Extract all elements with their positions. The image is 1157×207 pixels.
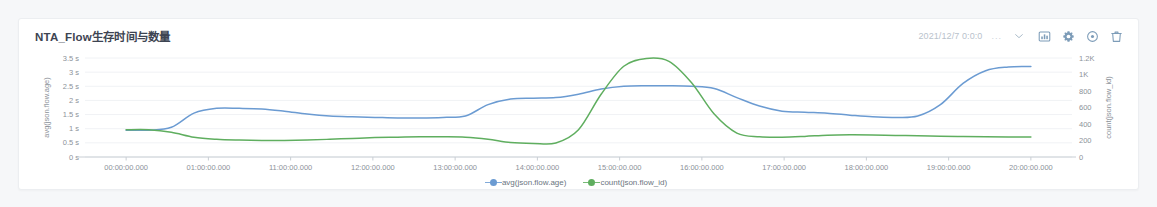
card-toolbar: 2021/12/7 0:0:0 ... — [918, 29, 1124, 44]
chart-legend: avg(json.flow.age) count(json.flow_id) — [19, 178, 1138, 187]
legend-item-avg[interactable]: avg(json.flow.age) — [490, 178, 566, 187]
legend-item-count[interactable]: count(json.flow_id) — [588, 178, 667, 187]
time-range-ellipsis: ... — [991, 31, 1002, 41]
y2-axis-tick-label: 800 — [1079, 87, 1092, 96]
y2-axis-tick-label: 400 — [1079, 120, 1092, 129]
x-axis-tick-label: 16:00:00.000 — [680, 163, 724, 172]
x-axis-tick-label: 11:00:00.000 — [269, 163, 312, 172]
page-background: NTA_Flow生存时间与数量 2021/12/7 0:0:0 ... — [0, 0, 1157, 207]
chart-plot-area: 3.5 s3 s2.5 s2 s1.5 s1 s0.5 s0 s1.2K1K80… — [19, 53, 1138, 191]
x-axis-tick-label: 13:00:00.000 — [433, 163, 477, 172]
y-axis-title: avg(json.flow.age) — [42, 77, 51, 138]
y-axis-tick-label: 2 s — [69, 96, 79, 105]
y-axis-tick-label: 3 s — [69, 68, 79, 77]
legend-label-avg: avg(json.flow.age) — [502, 178, 566, 187]
card-header: NTA_Flow生存时间与数量 2021/12/7 0:0:0 ... — [19, 19, 1138, 53]
y2-axis-tick-label: 1.2K — [1079, 54, 1094, 63]
y-axis-tick-label: 1.5 s — [63, 110, 80, 119]
x-axis-tick-label: 00:00:00.000 — [104, 163, 148, 172]
x-axis-tick-label: 17:00:00.000 — [762, 163, 806, 172]
y2-axis-tick-label: 200 — [1079, 136, 1092, 145]
y2-axis-title: count(json.flow_id) — [1104, 76, 1113, 139]
chevron-down-icon[interactable] — [1011, 29, 1026, 44]
chart-card: NTA_Flow生存时间与数量 2021/12/7 0:0:0 ... — [18, 18, 1139, 190]
trash-icon[interactable] — [1109, 29, 1124, 44]
legend-marker-avg — [490, 179, 497, 186]
line-chart[interactable]: 3.5 s3 s2.5 s2 s1.5 s1 s0.5 s0 s1.2K1K80… — [19, 53, 1138, 191]
y2-axis-tick-label: 600 — [1079, 103, 1092, 112]
y-axis-tick-label: 2.5 s — [63, 82, 80, 91]
series-line-count[interactable] — [126, 58, 1031, 144]
gear-icon[interactable] — [1061, 29, 1076, 44]
x-axis-tick-label: 01:00:00.000 — [186, 163, 230, 172]
legend-label-count: count(json.flow_id) — [600, 178, 667, 187]
y-axis-tick-label: 3.5 s — [63, 54, 80, 63]
time-range-label[interactable]: 2021/12/7 0:0:0 — [918, 31, 982, 41]
chart-bar-icon[interactable] — [1037, 29, 1052, 44]
x-axis-tick-label: 14:00:00.000 — [515, 163, 559, 172]
x-axis-tick-label: 20:00:00.000 — [1009, 163, 1053, 172]
page-title: NTA_Flow生存时间与数量 — [35, 28, 170, 44]
series-line-avg[interactable] — [126, 66, 1031, 130]
y-axis-tick-label: 0.5 s — [63, 138, 80, 147]
x-axis-tick-label: 15:00:00.000 — [598, 163, 642, 172]
legend-marker-count — [588, 179, 595, 186]
y-axis-tick-label: 1 s — [69, 124, 79, 133]
y2-axis-tick-label: 0 — [1079, 153, 1083, 162]
x-axis-tick-label: 19:00:00.000 — [927, 163, 971, 172]
x-axis-tick-label: 18:00:00.000 — [844, 163, 888, 172]
refresh-icon[interactable] — [1085, 29, 1100, 44]
x-axis-tick-label: 12:00:00.000 — [351, 163, 395, 172]
y2-axis-tick-label: 1K — [1079, 70, 1088, 79]
